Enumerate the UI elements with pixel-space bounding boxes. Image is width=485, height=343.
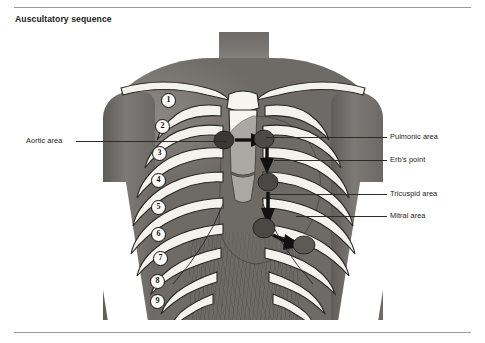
point-tricuspid	[253, 218, 275, 238]
ribcage-overlay	[103, 32, 383, 320]
rib-number-7: 7	[153, 251, 168, 266]
chest-photograph: 1 2 3 4 5 6 7 8 9	[103, 32, 383, 320]
rib-number-5: 5	[151, 200, 166, 215]
leader-line-erbs	[274, 160, 387, 161]
leader-line-pulmonic	[266, 137, 387, 138]
bottom-divider-rule	[14, 332, 471, 333]
auscultatory-sequence-figure: Auscultatory sequence	[0, 0, 485, 343]
rib-number-1: 1	[161, 93, 176, 108]
figure-title: Auscultatory sequence	[15, 14, 112, 24]
rib-number-6: 6	[151, 227, 166, 242]
label-mitral-area: Mitral area	[390, 211, 425, 220]
leader-line-tricuspid	[268, 194, 387, 195]
leader-line-aortic	[76, 141, 226, 142]
label-pulmonic-area: Pulmonic area	[390, 132, 438, 141]
rib-number-3: 3	[152, 146, 167, 161]
point-aortic	[214, 131, 234, 149]
top-divider-rule	[14, 7, 471, 8]
label-erbs-point: Erb's point	[390, 155, 425, 164]
leader-line-mitral	[296, 216, 387, 217]
rib-number-2: 2	[155, 119, 170, 134]
label-tricuspid-area: Tricuspid area	[390, 189, 437, 198]
rib-number-9: 9	[150, 294, 165, 309]
left-ribs	[131, 105, 223, 320]
point-pulmonic	[254, 130, 274, 148]
point-mitral	[293, 236, 315, 254]
rib-number-4: 4	[151, 173, 166, 188]
label-aortic-area: Aortic area	[26, 136, 62, 145]
point-erbs	[258, 173, 278, 191]
rib-number-8: 8	[150, 274, 165, 289]
